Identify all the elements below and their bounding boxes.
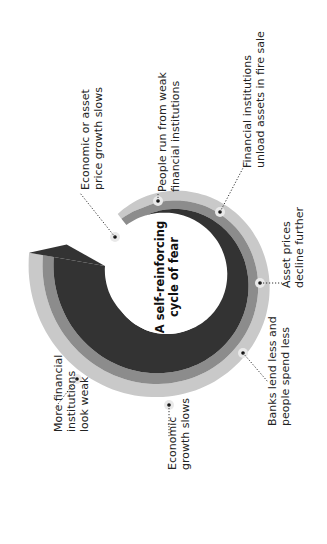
center-title-text: A self-reinforcingcycle of fear: [153, 221, 181, 333]
leader-line: [243, 353, 268, 382]
step-label-4: Asset pricesdecline further: [280, 206, 306, 288]
leader-line: [80, 193, 115, 237]
center-title: A self-reinforcingcycle of fear: [153, 221, 181, 333]
spiral-canvas: A self-reinforcingcycle of fear Economic…: [0, 0, 327, 544]
fear-cycle-diagram: A self-reinforcingcycle of fear Economic…: [0, 0, 327, 544]
step-label-1: Economic or assetprice growth slows: [79, 87, 105, 190]
step-label-3: Financial institutionsunload assets in f…: [241, 31, 267, 168]
step-label-2: People run from weakfinancial institutio…: [156, 71, 182, 192]
step-label-5: Banks lend less andpeople spend less: [266, 316, 292, 426]
